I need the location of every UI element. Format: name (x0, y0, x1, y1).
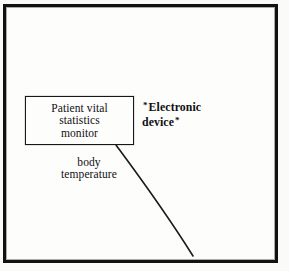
device-annotation-line-1: *Electronic (142, 99, 234, 114)
diagram-canvas: Patient vital statistics monitor body te… (0, 0, 289, 271)
asterisk-icon-left: * (142, 100, 149, 110)
monitor-box[interactable]: Patient vital statistics monitor (25, 96, 134, 145)
device-annotation: *Electronic device* (142, 99, 234, 129)
asterisk-icon-right: * (174, 115, 181, 125)
edge-label-body-temperature: body temperature (41, 156, 137, 181)
device-annotation-text-1: Electronic (149, 100, 202, 114)
device-annotation-text-2: device (142, 115, 174, 129)
monitor-box-line-1: Patient vital (51, 102, 108, 115)
edge-label-line-1: body (41, 156, 137, 168)
edge-label-line-2: temperature (41, 168, 137, 180)
monitor-box-line-2: statistics (59, 114, 100, 127)
monitor-box-line-3: monitor (61, 127, 98, 140)
device-annotation-line-2: device* (142, 114, 234, 129)
